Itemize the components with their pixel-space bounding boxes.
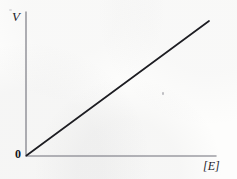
origin-label: 0 [15, 148, 21, 160]
plot-canvas [0, 0, 237, 179]
data-line-v-vs-e [27, 21, 210, 156]
x-axis-label: [E] [203, 160, 220, 172]
data-series-group [27, 21, 210, 156]
y-axis-label: V [12, 10, 20, 23]
plot-figure: V [E] 0 [0, 0, 237, 179]
